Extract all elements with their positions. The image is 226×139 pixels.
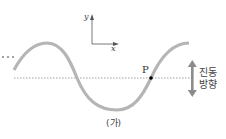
axes-indicator	[90, 14, 119, 46]
vibration-direction-label: 진동 방향	[199, 67, 217, 91]
direction-label-line1: 진동	[199, 67, 217, 79]
vibration-direction-arrow	[188, 60, 197, 97]
point-p-label: P	[142, 64, 149, 75]
x-axis-label: x	[111, 44, 116, 53]
direction-label-line2: 방향	[199, 79, 217, 91]
wave-curve	[14, 43, 189, 110]
figure-caption: (가)	[106, 116, 121, 129]
ellipsis-dots	[2, 56, 14, 58]
y-axis-label: y	[84, 12, 89, 21]
point-p	[149, 76, 153, 80]
